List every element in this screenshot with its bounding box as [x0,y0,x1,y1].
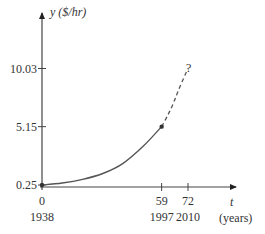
data-points [40,124,164,187]
x-tick-label: 0 [39,195,45,207]
observed-curve [42,127,162,185]
x-axis-label: t [230,196,233,208]
y-axis-label: y ($/hr) [50,6,86,18]
projection-question-mark: ? [186,62,191,74]
x-tick-label: 59 [156,195,168,207]
y-tick-label: 10.03 [10,63,37,75]
x-tick-label: 72 [182,195,194,207]
data-point-marker [159,124,163,128]
x-tick-year: 2010 [176,211,200,223]
y-tick-label: 0.25 [16,179,37,191]
x-tick-year: 1938 [30,211,54,223]
y-tick-label: 5.15 [16,121,37,133]
x-axis-units: (years) [219,212,252,224]
data-point-marker [40,183,44,187]
projected-curve [162,69,188,127]
x-tick-year: 1997 [150,211,174,223]
